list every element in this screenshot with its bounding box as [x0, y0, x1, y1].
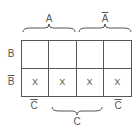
label-a-bar: A	[99, 14, 111, 24]
cell-r1c4	[104, 41, 131, 69]
brace-a-bar	[79, 24, 131, 32]
cell-r2c4: X	[104, 69, 131, 97]
label-c-bar-left: C	[29, 101, 39, 111]
cell-r2c3: X	[77, 69, 104, 97]
label-b: B	[6, 49, 16, 59]
cell-r1c2	[49, 41, 76, 69]
brace-a	[23, 24, 75, 32]
cell-r2c2: X	[49, 69, 76, 97]
label-c-bar-right: C	[113, 101, 123, 111]
cell-r2c1: X	[22, 69, 49, 97]
brace-c	[52, 107, 102, 115]
label-c: C	[72, 117, 82, 127]
cell-r1c1	[22, 41, 49, 69]
label-a: A	[43, 14, 55, 24]
karnaugh-grid: X X X X	[21, 40, 132, 97]
cell-r1c3	[77, 41, 104, 69]
label-b-bar: B	[6, 77, 16, 87]
